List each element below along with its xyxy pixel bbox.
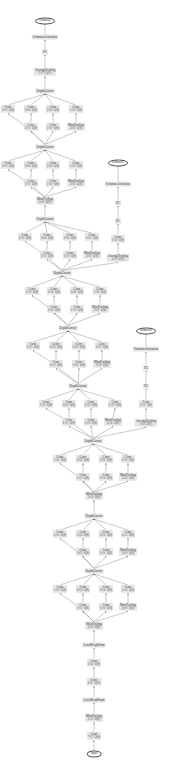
layer-node-c8c: Conv5×5+1(S) xyxy=(46,161,60,169)
node-sublabel: 3×3+1(S) xyxy=(68,127,84,131)
layer-node-c8d: Conv1×1+1(S) xyxy=(69,161,83,169)
node-sublabel: 3×3+1(S) xyxy=(48,291,60,295)
node-sublabel: 1×1+1(S) xyxy=(122,459,134,463)
edge-arrow xyxy=(8,150,45,161)
layer-node-c8a: Conv1×1+1(S) xyxy=(1,161,15,169)
node-sublabel: 1×1+1(S) xyxy=(50,364,62,368)
edge-arrow xyxy=(93,428,146,439)
node-sublabel: 1×1+1(S) xyxy=(100,477,112,481)
node-sublabel: 1×1+1(S) xyxy=(40,404,52,408)
googlenet-diagram: softmax2SoftmaxActivationFCAveragePoolin… xyxy=(0,0,174,769)
node-sublabel: 1×1+1(S) xyxy=(122,534,134,538)
node-label: softmax0 xyxy=(140,328,152,332)
layer-node-c2b: Conv3×3+1(S) xyxy=(76,530,90,538)
layer-node-c3c: Conv5×5+1(S) xyxy=(99,455,113,463)
node-sublabel: 3×3+1(S) xyxy=(68,183,84,187)
node-sublabel: 5×5+1(S) xyxy=(47,109,59,113)
layer-node-c1d: Conv1×1+1(S) xyxy=(121,585,135,593)
node-sublabel: 3×3+1(S) xyxy=(94,364,110,368)
edge-arrow xyxy=(62,276,100,287)
layer-node-c1f: Conv1×1+1(S) xyxy=(99,603,113,611)
layer-node-cv1: Conv1×1+1(V) xyxy=(87,678,102,686)
edge-arrow xyxy=(25,222,45,233)
node-sublabel: 1×1+1(S) xyxy=(41,255,53,259)
node-sublabel: 5×5+3(V) xyxy=(108,258,128,262)
node-label: LocalRespNorm xyxy=(83,642,104,646)
node-label: SoftmaxActivation xyxy=(106,181,130,185)
layer-node-c9e: Conv1×1+1(S) xyxy=(24,123,38,131)
node-sublabel: 3×3+1(S) xyxy=(120,477,136,481)
layer-node-c6g: MaxPooling3×3+1(S) xyxy=(91,305,109,313)
node-sublabel: 3×3+2(S) xyxy=(37,201,53,205)
node-sublabel: 1×1+1(V) xyxy=(88,682,101,686)
node-sublabel: 1×1+1(S) xyxy=(48,309,60,313)
node-sublabel: 1×1+1(S) xyxy=(70,109,82,113)
layer-node-c6c: Conv5×5+1(S) xyxy=(70,287,84,295)
node-sublabel: 1×1+1(S) xyxy=(86,237,98,241)
layer-node-c2f: Conv1×1+1(S) xyxy=(99,548,113,556)
layer-node-mp1: MaxPooling3×3+2(S) xyxy=(85,714,103,722)
layer-node-c5c: Conv5×5+1(S) xyxy=(72,342,86,350)
node-label: DepthConcat xyxy=(70,383,87,387)
node-sublabel: 5×5+1(S) xyxy=(100,589,112,593)
edge-arrow xyxy=(78,389,115,400)
edge-arrow xyxy=(83,557,94,569)
layer-node-dc1: DepthConcat xyxy=(85,569,104,574)
layer-node-dc7: DepthConcat xyxy=(36,217,55,222)
layer-node-c3b: Conv3×3+1(S) xyxy=(76,455,90,463)
layer-node-c4g: MaxPooling3×3+1(S) xyxy=(104,418,122,426)
layer-node-c1a: Conv1×1+1(S) xyxy=(53,585,67,593)
node-label: FC xyxy=(116,200,120,204)
node-sublabel: 3×3+1(S) xyxy=(120,552,136,556)
edge-arrow xyxy=(33,331,68,342)
node-label: LocalRespNorm xyxy=(83,697,104,701)
node-sublabel: 5×5+1(S) xyxy=(73,346,85,350)
edge-arrow xyxy=(45,222,70,233)
layer-node-c9d: Conv1×1+1(S) xyxy=(69,105,83,113)
layer-node-c3a: Conv1×1+1(S) xyxy=(53,455,67,463)
layer-node-c4f: Conv1×1+1(S) xyxy=(84,418,98,426)
node-sublabel: 3×3+1(S) xyxy=(120,607,136,611)
node-sublabel: 1×1+1(S) xyxy=(27,346,39,350)
layer-node-c9g: MaxPooling3×3+1(S) xyxy=(67,123,85,131)
edge-arrow xyxy=(62,260,92,271)
node-sublabel: 1×1+1(S) xyxy=(26,291,38,295)
node-sublabel: 1×1+1(S) xyxy=(64,255,76,259)
node-sublabel: 5×5+1(S) xyxy=(71,291,83,295)
layer-node-cx1: Conv1×1+1(S) xyxy=(111,235,125,243)
node-sublabel: 1×1+1(S) xyxy=(112,239,124,243)
node-sublabel: 3×3+1(S) xyxy=(84,255,100,259)
edge-arrow xyxy=(31,132,45,145)
edge-arrow xyxy=(32,276,62,287)
layer-node-c2e: Conv1×1+1(S) xyxy=(76,548,90,556)
edge-arrow xyxy=(54,314,68,326)
layer-node-fc2b: FC xyxy=(143,366,149,371)
node-sublabel: 1×1+1(S) xyxy=(71,309,83,313)
terminal-node-in: input xyxy=(87,750,102,757)
node-sublabel: 5×5+1(S) xyxy=(100,534,112,538)
layer-node-c7b: Conv3×3+1(S) xyxy=(40,233,54,241)
layer-node-c6a: Conv1×1+1(S) xyxy=(25,287,39,295)
node-sublabel: 3×3+1(S) xyxy=(41,237,53,241)
layer-node-c8e: Conv1×1+1(S) xyxy=(24,179,38,187)
node-sublabel: 1×1+1(S) xyxy=(122,589,134,593)
edge-arrow xyxy=(31,94,45,105)
node-sublabel: 3×3+2(S) xyxy=(86,496,102,500)
edge-arrow xyxy=(94,574,128,585)
layer-node-cv0: Conv7×7+2(S) xyxy=(87,732,101,740)
edge-arrow xyxy=(93,444,128,455)
edge-arrow xyxy=(31,150,45,161)
node-sublabel: 1×1+1(S) xyxy=(19,237,31,241)
layer-node-c4d: Conv1×1+1(S) xyxy=(108,400,122,408)
edge-arrow xyxy=(47,260,62,271)
edge-arrow xyxy=(68,331,102,342)
node-label: DepthConcat xyxy=(37,88,54,92)
node-label: SoftmaxActivation xyxy=(134,346,158,350)
layer-node-c5e: Conv1×1+1(S) xyxy=(49,360,63,368)
layer-node-mp2: MaxPooling3×3+2(S) xyxy=(85,622,103,630)
layer-node-dc3: DepthConcat xyxy=(84,439,103,444)
layer-node-c7a: Conv1×1+1(S) xyxy=(18,233,32,241)
layer-node-c6b: Conv3×3+1(S) xyxy=(47,287,61,295)
node-sublabel: 3×3+1(S) xyxy=(25,165,37,169)
layer-node-c2c: Conv5×5+1(S) xyxy=(99,530,113,538)
